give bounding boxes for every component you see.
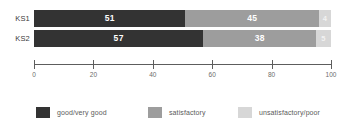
bar-segment-satisfactory[interactable]: 38 (203, 30, 316, 47)
bar-row: KS2 57 38 5 (0, 30, 347, 47)
axis-tick (331, 60, 332, 69)
axis-tick-label: 40 (141, 71, 165, 78)
chart-legend: good/very good satisfactory unsatisfacto… (0, 104, 347, 124)
legend-label: unsatisfactory/poor (259, 109, 320, 116)
legend-item-unsatisfactory[interactable]: unsatisfactory/poor (238, 104, 320, 120)
axis-tick (212, 60, 213, 69)
bar-segment-value: 45 (247, 14, 257, 23)
bar-segment-value: 57 (114, 34, 124, 43)
bar-segment-good[interactable]: 51 (34, 10, 185, 27)
legend-swatch-icon (36, 107, 50, 118)
x-axis: 0 20 40 60 80 100 (34, 58, 331, 84)
bar-segment-value: 4 (323, 15, 327, 23)
axis-line (34, 64, 331, 65)
axis-tick-label: 60 (200, 71, 224, 78)
axis-tick (34, 60, 35, 69)
legend-swatch-icon (148, 107, 162, 118)
bar-row: KS1 51 45 4 (0, 10, 347, 27)
legend-label: satisfactory (169, 109, 206, 116)
legend-label: good/very good (57, 109, 107, 116)
row-label-ks1: KS1 (2, 10, 30, 27)
legend-swatch-icon (238, 107, 252, 118)
bar-segment-good[interactable]: 57 (34, 30, 203, 47)
axis-tick (153, 60, 154, 69)
bar-segment-value: 38 (255, 34, 265, 43)
bar-track: 51 45 4 (34, 10, 331, 27)
legend-item-good[interactable]: good/very good (36, 104, 107, 120)
row-label-ks2: KS2 (2, 30, 30, 47)
axis-tick (272, 60, 273, 69)
axis-tick-label: 0 (22, 71, 46, 78)
bar-track: 57 38 5 (34, 30, 331, 47)
legend-item-satisfactory[interactable]: satisfactory (148, 104, 206, 120)
stacked-bar-chart: KS1 51 45 4 KS2 57 38 5 (0, 0, 347, 135)
axis-tick-label: 20 (81, 71, 105, 78)
axis-tick-label: 100 (319, 71, 343, 78)
axis-tick (93, 60, 94, 69)
bar-segment-value: 5 (321, 35, 325, 43)
bar-segment-value: 51 (105, 14, 115, 23)
bar-segment-satisfactory[interactable]: 45 (185, 10, 319, 27)
bar-segment-unsatisfactory[interactable]: 4 (319, 10, 331, 27)
axis-tick-label: 80 (260, 71, 284, 78)
bar-segment-unsatisfactory[interactable]: 5 (316, 30, 331, 47)
